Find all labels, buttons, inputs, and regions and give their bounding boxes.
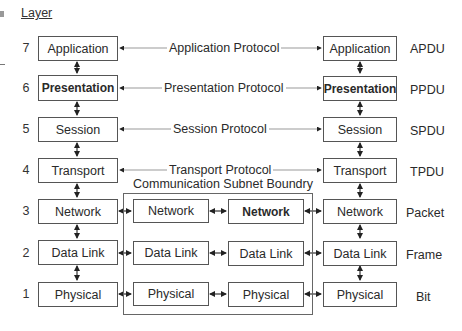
protocol-label: Presentation Protocol <box>162 81 286 95</box>
host-a-data-link: Data Link <box>38 240 118 265</box>
host-a-session: Session <box>38 117 118 142</box>
subnet-node2-data-link: Data Link <box>228 241 304 266</box>
data-unit-label: Frame <box>406 248 442 262</box>
host-a-network: Network <box>38 199 118 224</box>
layer-number: 1 <box>20 287 32 301</box>
data-unit-label: Bit <box>416 290 431 304</box>
protocol-label: Application Protocol <box>167 41 281 55</box>
host-a-physical: Physical <box>38 282 118 307</box>
host-a-transport: Transport <box>38 158 118 183</box>
protocol-label: Session Protocol <box>171 122 269 136</box>
data-unit-label: PPDU <box>410 83 445 97</box>
data-unit-label: APDU <box>410 42 445 56</box>
host-b-physical: Physical <box>323 282 397 307</box>
subnet-boundary-label: Communication Subnet Boundry <box>133 177 313 191</box>
host-b-presentation: Presentation <box>323 76 397 101</box>
layer-number: 6 <box>20 81 32 95</box>
layer-number: 5 <box>20 122 32 136</box>
protocol-label: Transport Protocol <box>167 163 273 177</box>
subnet-node1-physical: Physical <box>133 282 209 306</box>
host-b-transport: Transport <box>323 158 397 183</box>
subnet-node1-data-link: Data Link <box>133 241 209 265</box>
host-a-presentation: Presentation <box>38 75 118 101</box>
data-unit-label: Packet <box>406 206 444 220</box>
data-unit-label: TPDU <box>410 165 444 179</box>
subnet-node2-network: Network <box>228 199 304 224</box>
subnet-node2-physical: Physical <box>228 282 304 307</box>
layer-number: 4 <box>20 163 32 177</box>
host-b-data-link: Data Link <box>323 241 397 266</box>
subnet-node1-network: Network <box>133 199 209 223</box>
host-a-application: Application <box>38 36 118 61</box>
data-unit-label: SPDU <box>410 124 445 138</box>
layer-number: 2 <box>20 246 32 260</box>
host-b-application: Application <box>323 36 397 61</box>
layer-number: 3 <box>20 204 32 218</box>
layer-number: 7 <box>20 41 32 55</box>
host-b-network: Network <box>323 199 397 224</box>
host-b-session: Session <box>323 117 397 142</box>
